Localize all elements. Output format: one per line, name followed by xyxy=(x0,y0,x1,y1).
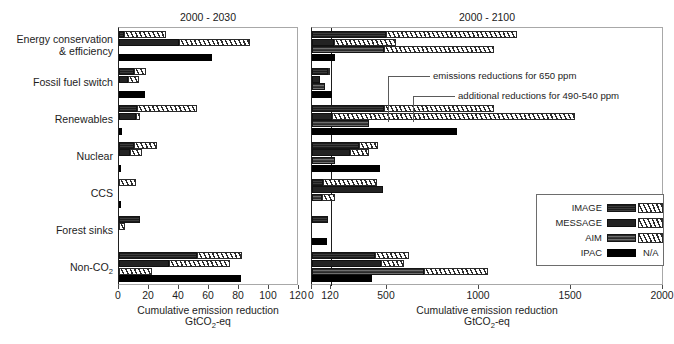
x-tick xyxy=(208,285,209,289)
bar-segment-490-540ppm xyxy=(350,149,369,156)
bar-message xyxy=(312,39,664,46)
x-tick xyxy=(148,285,149,289)
bar-group-3 xyxy=(312,105,664,135)
axis-title-line1: Cumulative emission reduction xyxy=(416,305,558,316)
category-label-1: Energy conservation& efficiency xyxy=(16,33,113,57)
bar-segment-490-540ppm xyxy=(128,76,139,83)
bar-segment-650ppm xyxy=(312,149,350,156)
bar-segment-490-540ppm xyxy=(386,31,517,38)
bar-ipac xyxy=(312,128,664,135)
annotation-490-540ppm: additional reductions for 490-540 ppm xyxy=(458,90,619,101)
bar-segment-490-540ppm xyxy=(179,39,250,46)
bar-aim xyxy=(119,231,299,238)
bar-aim xyxy=(119,120,299,127)
category-label-5: CCS xyxy=(91,187,113,199)
bar-message xyxy=(119,39,299,46)
annotation-650ppm: emissions reductions for 650 ppm xyxy=(433,70,576,81)
bar-segment-650ppm xyxy=(312,113,332,120)
category-axis-labels: Energy conservation& efficiencyFossil fu… xyxy=(0,27,113,285)
x-tick-label: 0 xyxy=(308,290,314,301)
bar-image xyxy=(119,142,299,149)
x-tick-label: 1000 xyxy=(466,290,489,301)
bar-aim xyxy=(119,194,299,201)
legend-swatch-650ppm xyxy=(607,219,637,227)
axis-title-line1: Cumulative emission reduction xyxy=(137,305,279,316)
bar-segment-650ppm xyxy=(119,128,122,135)
bar-segment-490-540ppm xyxy=(328,68,330,75)
category-label-text: Forest sinks xyxy=(56,224,113,236)
bar-segment-650ppm xyxy=(312,157,335,164)
bar-segment-650ppm xyxy=(119,216,140,223)
bar-message xyxy=(312,113,664,120)
bar-segment-650ppm xyxy=(119,54,212,61)
bar-group-1 xyxy=(119,31,299,61)
legend-row-image: IMAGE xyxy=(537,202,663,213)
bar-segment-490-540ppm xyxy=(384,105,494,112)
bar-segment-490-540ppm xyxy=(136,113,141,120)
bar-aim xyxy=(312,46,664,53)
bar-aim xyxy=(312,268,664,275)
bar-message xyxy=(119,186,299,193)
x-tick xyxy=(178,285,179,289)
x-tick-label: 0 xyxy=(115,290,121,301)
x-tick xyxy=(118,285,119,289)
bar-message xyxy=(119,76,299,83)
axis-title-line2: GtCO2-eq xyxy=(118,316,298,330)
bar-segment-650ppm xyxy=(312,238,327,245)
x-tick-label: 1500 xyxy=(558,290,581,301)
panel-2000-2030: 2000 - 2030 Energy conservation& efficie… xyxy=(0,0,300,344)
bar-segment-650ppm xyxy=(312,268,424,275)
category-label-text: Nuclear xyxy=(76,150,113,162)
bar-segment-650ppm xyxy=(312,68,328,75)
bar-group-2 xyxy=(119,68,299,98)
x-tick-label: 20 xyxy=(142,290,154,301)
bar-segment-650ppm xyxy=(119,201,121,208)
bar-segment-650ppm xyxy=(119,260,169,267)
category-label-text: Energy conservation xyxy=(16,33,113,45)
bar-aim xyxy=(312,120,664,127)
bar-segment-650ppm xyxy=(312,179,323,186)
bar-ipac xyxy=(119,54,299,61)
bar-segment-650ppm xyxy=(119,252,197,259)
x-tick xyxy=(268,285,269,289)
bar-group-5 xyxy=(119,179,299,209)
bar-ipac xyxy=(119,275,299,282)
x-tick xyxy=(330,285,331,289)
bar-segment-490-540ppm xyxy=(384,46,494,53)
bar-segment-490-540ppm xyxy=(124,31,166,38)
legend: IMAGEMESSAGEAIMIPACN/A xyxy=(536,194,664,266)
bar-segment-650ppm xyxy=(119,39,179,46)
bar-message xyxy=(119,223,299,230)
bar-aim xyxy=(312,157,664,164)
bar-segment-490-540ppm xyxy=(169,260,231,267)
bar-group-4 xyxy=(312,142,664,172)
category-label-7: Non-CO2 xyxy=(70,261,113,278)
category-label-text-line2: & efficiency xyxy=(16,45,113,57)
panel-right-title: 2000 - 2100 xyxy=(311,11,663,23)
x-tick xyxy=(298,285,299,289)
bar-segment-650ppm xyxy=(312,252,375,259)
bar-segment-650ppm xyxy=(312,120,369,127)
bar-segment-650ppm xyxy=(312,194,322,201)
bar-image xyxy=(119,252,299,259)
bar-image xyxy=(119,68,299,75)
bar-segment-650ppm xyxy=(312,54,335,61)
x-tick-label: 2000 xyxy=(650,290,673,301)
bar-image xyxy=(312,105,664,112)
bar-segment-650ppm xyxy=(119,149,130,156)
bar-image xyxy=(119,105,299,112)
legend-na-label: N/A xyxy=(638,247,663,258)
legend-swatch-490-540ppm xyxy=(638,233,663,243)
category-label-4: Nuclear xyxy=(76,150,113,162)
bar-ipac xyxy=(312,165,664,172)
legend-row-message: MESSAGE xyxy=(537,217,663,228)
bar-segment-490-540ppm xyxy=(197,252,242,259)
bar-image xyxy=(312,179,664,186)
category-label-text: Non-CO2 xyxy=(70,261,113,273)
bar-ipac xyxy=(119,91,299,98)
bar-ipac xyxy=(119,128,299,135)
bar-segment-650ppm xyxy=(119,165,121,172)
bar-ipac xyxy=(312,54,664,61)
legend-swatch-490-540ppm xyxy=(638,218,663,228)
